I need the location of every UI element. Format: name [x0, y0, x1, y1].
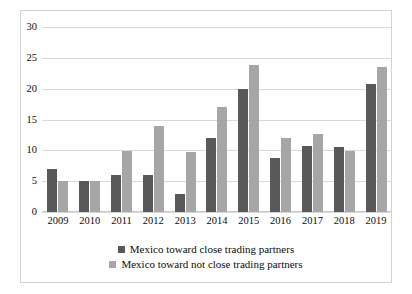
x-axis-tick-label: 2016 [270, 216, 291, 227]
y-axis-tick-label: 25 [27, 53, 38, 64]
x-axis-tick-label: 2010 [79, 216, 100, 227]
bar [143, 175, 153, 212]
legend-swatch-icon [118, 246, 125, 253]
y-axis-tick-label: 15 [27, 114, 38, 125]
bar [154, 126, 164, 212]
legend-item[interactable]: Mexico toward not close trading partners [109, 258, 302, 270]
y-axis-tick-label: 5 [32, 176, 37, 187]
x-axis-tick-label: 2014 [206, 216, 227, 227]
bar-group: 2016 [265, 27, 297, 212]
bar [377, 67, 387, 212]
x-axis-tick-label: 2013 [175, 216, 196, 227]
bar [111, 175, 121, 212]
bar [175, 194, 185, 213]
x-axis-tick-label: 2011 [111, 216, 132, 227]
bar [302, 146, 312, 212]
plot-area: 051015202530 200920102011201220132014201… [21, 11, 391, 282]
bar-group: 2019 [360, 27, 392, 212]
x-axis-tick-label: 2012 [143, 216, 164, 227]
gridline [42, 212, 392, 213]
bar-group: 2014 [201, 27, 233, 212]
plot-canvas: 051015202530 200920102011201220132014201… [42, 27, 392, 212]
bar [238, 89, 248, 212]
legend-item[interactable]: Mexico toward close trading partners [118, 243, 294, 255]
y-axis-tick-label: 20 [27, 83, 38, 94]
bar [58, 181, 68, 212]
bar-group: 2011 [106, 27, 138, 212]
legend-label: Mexico toward not close trading partners [121, 258, 302, 270]
bar [90, 181, 100, 212]
y-axis-tick-label: 30 [27, 22, 38, 33]
bar [217, 107, 227, 212]
bar-group: 2015 [233, 27, 265, 212]
bar [334, 147, 344, 212]
x-axis-tick-label: 2017 [302, 216, 323, 227]
y-axis-tick-label: 0 [32, 207, 37, 218]
bar [313, 134, 323, 212]
x-axis-tick-label: 2009 [47, 216, 68, 227]
bar [122, 151, 132, 212]
chart-legend: Mexico toward close trading partnersMexi… [21, 243, 391, 270]
x-axis-tick-label: 2018 [334, 216, 355, 227]
bar-group: 2017 [297, 27, 329, 212]
bar [270, 158, 280, 212]
y-axis-tick-label: 10 [27, 145, 38, 156]
x-axis-tick-label: 2019 [366, 216, 387, 227]
bar-group: 2018 [328, 27, 360, 212]
bar [366, 84, 376, 212]
x-axis-tick-label: 2015 [238, 216, 259, 227]
bar-group: 2009 [42, 27, 74, 212]
legend-swatch-icon [109, 261, 116, 268]
legend-label: Mexico toward close trading partners [130, 243, 294, 255]
bar [206, 138, 216, 212]
bar [345, 151, 355, 212]
bar-group: 2010 [74, 27, 106, 212]
bar [47, 169, 57, 212]
chart-frame: 051015202530 200920102011201220132014201… [20, 10, 392, 283]
bar [186, 152, 196, 212]
bar-group: 2013 [169, 27, 201, 212]
bar [281, 138, 291, 212]
bar-group: 2012 [137, 27, 169, 212]
bar [79, 181, 89, 212]
bar [249, 65, 259, 212]
bar-groups: 2009201020112012201320142015201620172018… [42, 27, 392, 212]
